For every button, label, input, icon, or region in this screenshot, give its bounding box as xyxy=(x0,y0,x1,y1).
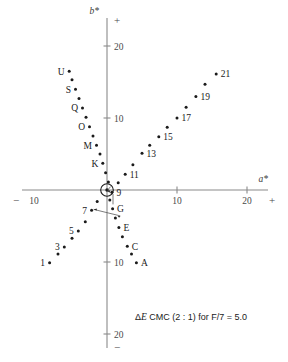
data-point xyxy=(176,117,179,120)
data-point-label: 7 xyxy=(82,206,87,216)
data-point-label: 9 xyxy=(116,188,121,198)
x-axis-title: a* xyxy=(259,174,269,184)
data-point xyxy=(107,181,110,184)
data-point xyxy=(141,152,144,155)
data-point xyxy=(126,245,129,248)
y-tick-label: 20 xyxy=(114,42,124,52)
data-point-label: 1 xyxy=(40,258,45,268)
data-point xyxy=(88,125,91,128)
data-point xyxy=(117,226,120,229)
data-point xyxy=(166,126,169,129)
seven-leader-tail-head xyxy=(118,216,121,218)
data-point-label: 3 xyxy=(55,242,60,252)
data-point xyxy=(57,253,60,256)
data-point xyxy=(130,253,133,256)
data-point xyxy=(121,235,124,238)
y-axis-negative-sign: − xyxy=(114,341,120,353)
data-point xyxy=(77,230,80,233)
data-point-label: 21 xyxy=(221,69,231,79)
data-point xyxy=(92,135,95,138)
data-point-label: O xyxy=(78,122,85,132)
data-point-label: 11 xyxy=(130,170,139,180)
data-point xyxy=(101,162,104,165)
data-point xyxy=(68,70,71,73)
axis-titles-group: a*b* xyxy=(90,6,269,184)
data-point-label: E xyxy=(123,223,129,233)
data-point xyxy=(157,135,160,138)
x-tick-label: 10 xyxy=(29,196,39,206)
data-point xyxy=(99,153,102,156)
y-tick-label: 20 xyxy=(114,330,124,340)
data-point-label: M xyxy=(84,141,93,151)
data-point xyxy=(215,73,218,76)
data-point-label: 17 xyxy=(182,113,192,123)
y-axis-title: b* xyxy=(90,6,100,16)
data-point-labels-group: 13579111315171921ACEGKMOQSU xyxy=(40,67,230,269)
seven-leader-arrowhead xyxy=(94,208,97,210)
data-point-label: 15 xyxy=(163,132,173,142)
data-point xyxy=(96,200,99,203)
data-point-label: 5 xyxy=(69,226,74,236)
data-point xyxy=(117,181,120,184)
data-point xyxy=(111,207,114,210)
data-point-label: Q xyxy=(71,103,78,113)
data-point xyxy=(81,106,84,109)
chart-page: 10102020101020 −++− a*b* 135791113151719… xyxy=(0,0,288,362)
x-tick-label: 20 xyxy=(242,196,252,206)
data-point xyxy=(135,261,138,264)
y-axis-positive-sign: + xyxy=(114,14,120,26)
data-point-label: U xyxy=(58,67,65,77)
x-axis-positive-sign: + xyxy=(269,194,275,206)
axis-sign-labels-group: −++− xyxy=(13,14,275,353)
data-point-label: S xyxy=(66,85,71,95)
data-point xyxy=(108,199,111,202)
data-point xyxy=(63,245,66,248)
data-point xyxy=(85,116,88,119)
data-point xyxy=(114,217,117,220)
data-point-label: A xyxy=(141,258,148,268)
data-point xyxy=(124,173,127,176)
x-tick-label: 10 xyxy=(172,196,182,206)
x-axis-negative-sign: − xyxy=(13,194,19,206)
data-point xyxy=(84,220,87,223)
data-point xyxy=(131,163,134,166)
data-point xyxy=(78,97,81,100)
data-point xyxy=(148,144,151,147)
data-point xyxy=(90,209,93,212)
y-tick-label: 10 xyxy=(114,114,124,124)
data-point-label: 19 xyxy=(200,92,210,102)
data-point xyxy=(71,78,74,81)
chart-annotation-caption: ΔE CMC (2 : 1) for F/7 = 5.0 xyxy=(135,312,247,322)
data-point xyxy=(48,261,51,264)
data-point-label: C xyxy=(132,242,138,252)
data-point xyxy=(95,144,98,147)
y-tick-label: 10 xyxy=(114,258,124,268)
data-point xyxy=(194,95,197,98)
annotation-text: ΔE CMC (2 : 1) for F/7 = 5.0 xyxy=(135,312,247,322)
data-point xyxy=(204,83,207,86)
annotation-rest: CMC (2 : 1) for F/7 = 5.0 xyxy=(147,312,247,322)
data-point xyxy=(104,171,107,174)
data-point xyxy=(185,106,188,109)
data-point-label: 13 xyxy=(147,149,157,159)
scatter-plot: 10102020101020 −++− a*b* 135791113151719… xyxy=(0,0,288,362)
data-point-label: K xyxy=(91,159,98,169)
data-point xyxy=(71,237,74,240)
data-point xyxy=(74,88,77,91)
data-point-label: G xyxy=(117,204,124,214)
